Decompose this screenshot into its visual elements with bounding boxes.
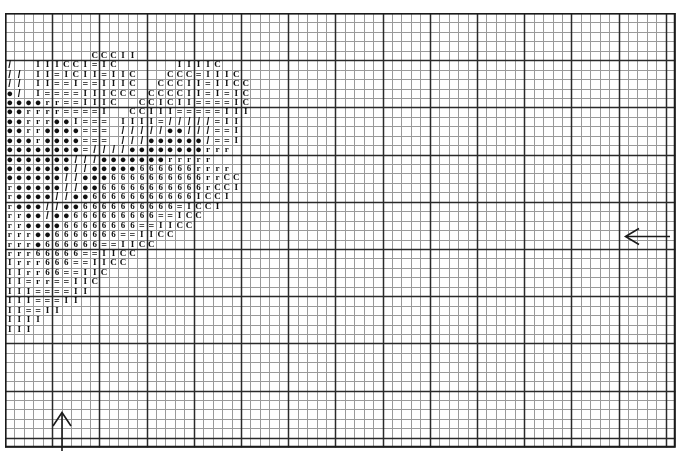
cross-stitch-chart: CCCII/IIICCI=ICIIIIC//II=ICII=IICCCC=III… [0, 0, 694, 476]
pattern-grid [5, 13, 676, 448]
vertical-center-arrow-icon [622, 227, 672, 247]
horizontal-center-arrow-icon [48, 409, 76, 453]
